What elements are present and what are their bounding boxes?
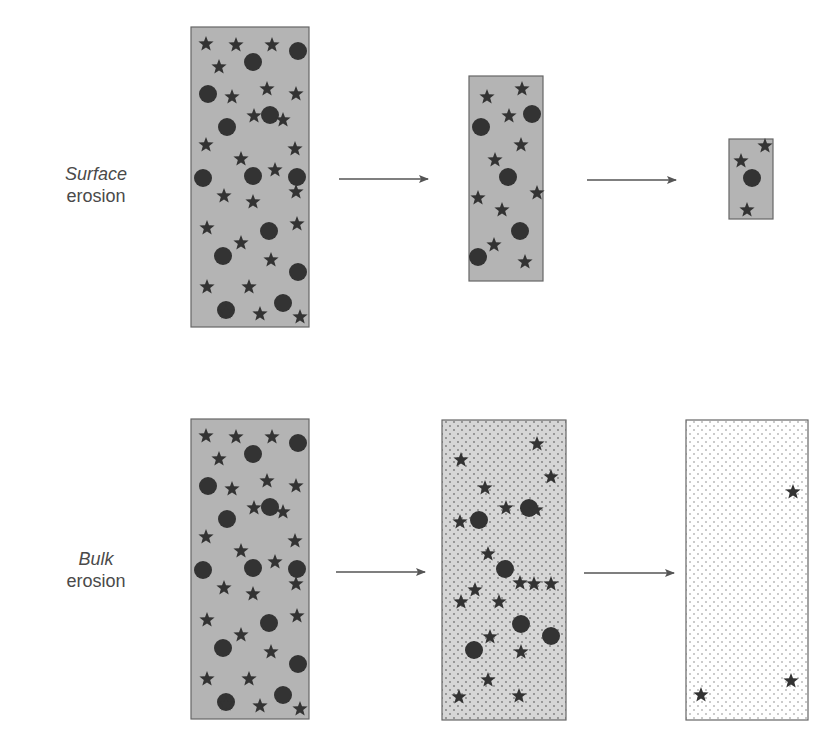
drug-particle-circle	[194, 169, 212, 187]
drug-particle-circle	[261, 498, 279, 516]
drug-particle-circle	[274, 686, 292, 704]
diagram-canvas	[0, 0, 838, 742]
drug-particle-circle	[199, 477, 217, 495]
drug-particle-circle	[289, 655, 307, 673]
drug-particle-circle	[260, 614, 278, 632]
drug-particle-circle	[244, 559, 262, 577]
drug-particle-circle	[499, 168, 517, 186]
bulk-stage-3	[686, 420, 808, 720]
drug-particle-circle	[244, 53, 262, 71]
surface-stage-2	[469, 76, 545, 281]
drug-particle-circle	[289, 42, 307, 60]
drug-particle-circle	[199, 85, 217, 103]
drug-particle-circle	[496, 560, 514, 578]
drug-particle-circle	[288, 168, 306, 186]
surface-stage-1	[191, 27, 309, 327]
drug-particle-circle	[465, 641, 483, 659]
drug-particle-circle	[289, 263, 307, 281]
drug-particle-circle	[472, 118, 490, 136]
erosion-diagram: Surface erosion Bulk erosion	[0, 0, 838, 742]
drug-particle-circle	[244, 167, 262, 185]
polymer-matrix	[686, 420, 808, 720]
drug-particle-circle	[194, 561, 212, 579]
drug-particle-circle	[214, 639, 232, 657]
drug-particle-circle	[523, 105, 541, 123]
drug-particle-circle	[214, 247, 232, 265]
drug-particle-circle	[261, 106, 279, 124]
drug-particle-circle	[260, 222, 278, 240]
drug-particle-circle	[512, 615, 530, 633]
drug-particle-circle	[289, 434, 307, 452]
drug-particle-circle	[244, 445, 262, 463]
drug-particle-circle	[274, 294, 292, 312]
drug-particle-circle	[218, 118, 236, 136]
drug-particle-circle	[288, 560, 306, 578]
drug-particle-circle	[470, 511, 488, 529]
drug-particle-circle	[542, 627, 560, 645]
drug-particle-circle	[218, 510, 236, 528]
bulk-stage-2	[442, 420, 566, 720]
drug-particle-circle	[469, 248, 487, 266]
surface-stage-3	[729, 138, 773, 219]
drug-particle-circle	[743, 169, 761, 187]
bulk-stage-1	[191, 419, 309, 719]
drug-particle-circle	[511, 222, 529, 240]
